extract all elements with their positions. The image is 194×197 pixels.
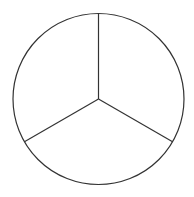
spoke-line-3 [99, 99, 173, 142]
spoke-line-2 [24, 99, 98, 142]
spokes [24, 14, 172, 142]
three-sector-circle-diagram [0, 0, 194, 197]
